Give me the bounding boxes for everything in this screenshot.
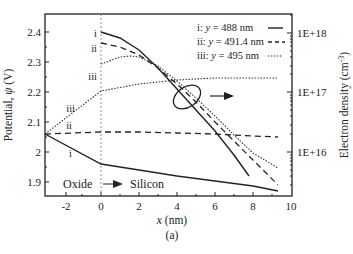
x-tick-labels: -2 0 2 4 6 8 10 (61, 200, 297, 212)
y-tick-label: 2.1 (27, 116, 41, 128)
label-potential-iii: iii (66, 103, 75, 114)
x-axis-label: x (nm) (156, 214, 188, 227)
y-right-tick-label: 1E+17 (297, 86, 327, 98)
y-tick-label: 2.2 (27, 86, 41, 98)
legend: i: y = 488 nm ii: y = 491.4 nm iii: y = … (197, 22, 285, 61)
y-axis-right (287, 15, 292, 185)
x-tick-label: 4 (174, 200, 180, 212)
potential-curve-ii (45, 132, 278, 137)
label-density-i: i (94, 28, 97, 39)
x-tick-label: 10 (286, 200, 298, 212)
label-density-iii: iii (88, 71, 97, 82)
silicon-arrow-icon (103, 180, 123, 188)
y-right-tick-label: 1E+16 (297, 146, 327, 158)
y-tick-label: 2.4 (27, 26, 41, 38)
x-tick-label: 0 (98, 200, 104, 212)
y-right-tick-label: 1E+18 (297, 27, 327, 39)
figure-caption: (a) (166, 229, 179, 242)
annotation-arrow-icon (210, 92, 234, 100)
chart: 2.4 2.3 2.2 2.1 2 1.9 (0, 0, 353, 254)
y-tick-label: 1.9 (27, 176, 41, 188)
silicon-label: Silicon (130, 177, 164, 191)
density-curve-ii (101, 43, 278, 185)
y-axis-label-right: Electron density (cm-3) (337, 52, 351, 158)
density-curve-iii (101, 56, 278, 168)
x-tick-label: 6 (212, 200, 218, 212)
y-tick-labels-left: 2.4 2.3 2.2 2.1 2 1.9 (27, 26, 41, 188)
x-tick-label: 2 (136, 200, 142, 212)
x-tick-label: 8 (250, 200, 256, 212)
y-tick-label: 2 (36, 146, 42, 158)
legend-entry-iii: iii: y = 495 nm (197, 50, 259, 61)
oxide-label: Oxide (63, 177, 92, 191)
legend-entry-i: i: y = 488 nm (197, 22, 253, 33)
x-tick-label: -2 (61, 200, 70, 212)
potential-curve-iii (45, 78, 278, 134)
label-potential-ii: ii (66, 120, 72, 131)
y-axis-label-left: Potential, ψ (V) (2, 69, 15, 142)
label-potential-i: i (69, 148, 72, 159)
y-tick-labels-right: 1E+18 1E+17 1E+16 (297, 27, 327, 158)
legend-entry-ii: ii: y = 491.4 nm (197, 36, 264, 47)
curve-labels: i ii iii iii ii i (66, 28, 97, 159)
label-density-ii: ii (91, 43, 97, 54)
y-tick-label: 2.3 (27, 56, 41, 68)
